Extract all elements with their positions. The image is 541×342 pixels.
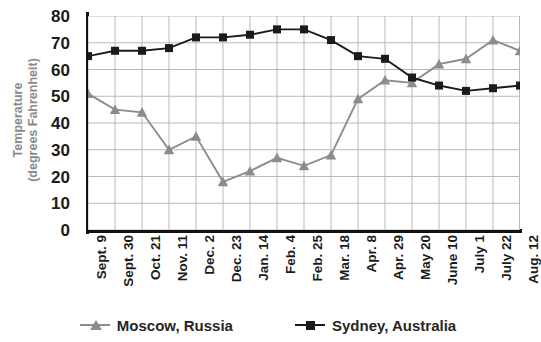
data-point-triangle [272, 153, 282, 163]
triangle-marker-icon [80, 318, 110, 332]
x-tick-label: Nov. 11 [176, 235, 190, 311]
y-tick-label: 20 [36, 168, 70, 185]
data-point-triangle [191, 131, 201, 141]
data-point-triangle [218, 177, 228, 187]
legend-item[interactable]: Sydney, Australia [295, 317, 456, 334]
x-tick-label: Feb. 4 [284, 235, 298, 311]
data-point-triangle [88, 88, 93, 98]
x-tick-label: Oct. 21 [149, 235, 163, 311]
y-tick-label: 10 [36, 195, 70, 212]
data-point-triangle [326, 150, 336, 160]
x-tick-label: July 1 [473, 235, 487, 311]
legend-item[interactable]: Moscow, Russia [80, 317, 233, 334]
data-point-triangle [488, 35, 498, 45]
data-point-square [408, 74, 416, 82]
series-line [88, 40, 520, 182]
data-point-triangle [245, 166, 255, 176]
data-point-square [300, 25, 308, 33]
x-tick-label: Mar. 18 [338, 235, 352, 311]
x-tick-label: Apr. 8 [365, 235, 379, 311]
data-point-square [462, 87, 470, 95]
y-tick-label: 30 [36, 141, 70, 158]
y-tick-label: 40 [36, 115, 70, 132]
data-point-square [381, 55, 389, 63]
data-point-square [138, 47, 146, 55]
y-tick-label: 0 [36, 222, 70, 239]
data-point-square [111, 47, 119, 55]
data-point-square [165, 44, 173, 52]
data-point-square [327, 36, 335, 44]
data-point-square [435, 82, 443, 90]
plot-area [88, 16, 520, 230]
series-moscow [88, 35, 520, 186]
x-axis-tick-labels: Sept. 9Sept. 30Oct. 21Nov. 11Dec. 2Dec. … [88, 233, 520, 309]
legend-marker-shape [90, 320, 102, 330]
y-tick-label: 50 [36, 88, 70, 105]
legend-label: Sydney, Australia [332, 317, 456, 334]
data-point-triangle [353, 94, 363, 104]
data-point-square [88, 52, 92, 60]
x-tick-label: Apr. 29 [392, 235, 406, 311]
x-tick-label: July 22 [500, 235, 514, 311]
x-tick-label: Dec. 2 [203, 235, 217, 311]
data-point-square [219, 33, 227, 41]
x-tick-label: Jan. 14 [257, 235, 271, 311]
x-tick-label: Sept. 9 [95, 235, 109, 311]
legend-marker-shape [306, 321, 315, 330]
data-point-triangle [515, 46, 520, 56]
y-tick-label: 80 [36, 8, 70, 25]
data-point-square [273, 25, 281, 33]
x-tick-label: Sept. 30 [122, 235, 136, 311]
data-point-square [192, 33, 200, 41]
data-point-square [516, 82, 520, 90]
y-axis-tick-labels: 80706050403020100 [18, 0, 70, 342]
data-point-square [489, 84, 497, 92]
x-tick-label: Dec. 23 [230, 235, 244, 311]
x-tick-label: Feb. 25 [311, 235, 325, 311]
data-point-square [246, 31, 254, 39]
y-tick-label: 60 [36, 61, 70, 78]
data-series-layer [88, 16, 520, 230]
y-tick-label: 70 [36, 34, 70, 51]
data-point-square [354, 52, 362, 60]
legend-label: Moscow, Russia [117, 317, 233, 334]
x-tick-label: May 20 [419, 235, 433, 311]
square-marker-icon [295, 318, 325, 332]
data-point-triangle [461, 54, 471, 64]
x-tick-label: Aug. 12 [527, 235, 541, 311]
chart-legend: Moscow, RussiaSydney, Australia [0, 310, 536, 340]
x-tick-label: June 10 [446, 235, 460, 311]
